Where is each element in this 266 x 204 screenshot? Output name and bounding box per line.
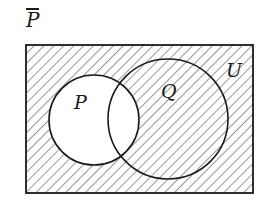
universe-label: U	[226, 59, 243, 81]
venn-diagram: P Q U	[0, 0, 266, 204]
set-p-label: P	[73, 91, 88, 113]
set-q-label: Q	[161, 80, 177, 102]
